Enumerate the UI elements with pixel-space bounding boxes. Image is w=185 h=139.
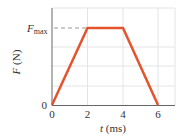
force-time-chart: 0 2 4 6 0 Fmax t (ms) F (N) — [0, 0, 185, 139]
x-tick-2: 2 — [85, 108, 91, 120]
grid — [52, 8, 175, 105]
x-tick-0: 0 — [49, 108, 55, 120]
axes — [52, 8, 175, 106]
y-tick-0: 0 — [42, 99, 48, 111]
x-tick-4: 4 — [120, 108, 126, 120]
x-axis-label: t (ms) — [100, 122, 126, 135]
y-tick-fmax: Fmax — [26, 22, 48, 36]
y-axis-label: F (N) — [10, 49, 23, 75]
x-tick-6: 6 — [155, 108, 161, 120]
